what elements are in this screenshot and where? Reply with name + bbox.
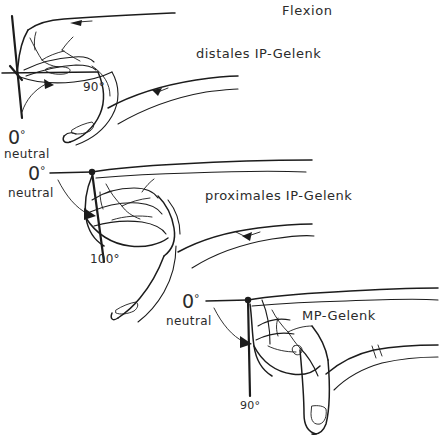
flexion-diagram: Flexion distales IP-Gelenk 0° neutral 90… (0, 0, 440, 437)
joint-label-proximal-ip: proximales IP-Gelenk (205, 188, 352, 203)
degree-symbol-distal-ip: ° (20, 128, 26, 141)
neutral-word-mp: neutral (166, 314, 212, 328)
neutral-value-proximal-ip: 0 (28, 162, 40, 184)
joint-label-distal-ip: distales IP-Gelenk (196, 46, 321, 61)
neutral-degrees-proximal-ip: 0° (28, 162, 46, 184)
flexion-angle-mp: 90° (240, 399, 260, 412)
neutral-value-mp: 0 (182, 290, 194, 312)
neutral-word-distal-ip: neutral (4, 147, 50, 161)
flexion-angle-proximal-ip: 100° (90, 252, 120, 266)
flexion-angle-distal-ip: 90° (83, 80, 105, 94)
degree-symbol-proximal-ip: ° (40, 164, 46, 177)
figure-title: Flexion (282, 3, 333, 18)
neutral-value-distal-ip: 0 (8, 126, 20, 148)
joint-label-mp: MP-Gelenk (302, 308, 376, 323)
panel-distal-ip-drawing (2, 13, 238, 145)
degree-symbol-mp: ° (194, 292, 200, 305)
neutral-word-proximal-ip: neutral (8, 186, 54, 200)
line-drawing-canvas (0, 0, 440, 437)
neutral-degrees-mp: 0° (182, 290, 200, 312)
neutral-degrees-distal-ip: 0° (8, 126, 26, 148)
